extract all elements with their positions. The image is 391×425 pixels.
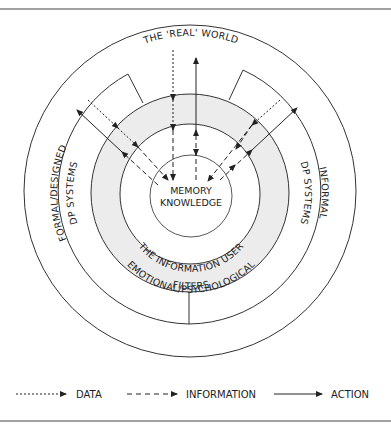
legend-item-data: DATA (16, 389, 102, 400)
legend: DATA INFORMATION ACTION (16, 389, 369, 400)
knowledge-label: KNOWLEDGE (160, 197, 222, 208)
legend-label-data: DATA (76, 389, 102, 400)
memory-knowledge-circle (150, 155, 232, 237)
right-box-edge (229, 70, 243, 100)
informal-dp-label-line1: INFORMAL (317, 166, 331, 221)
formal-dp-label-line2: DP SYSTEMS (64, 160, 79, 226)
legend-item-action: ACTION (274, 389, 369, 400)
legend-label-information: INFORMATION (186, 389, 256, 400)
left-box-edge (128, 74, 143, 103)
memory-label: MEMORY (170, 185, 212, 196)
real-world-label: THE 'REAL' WORLD (141, 27, 240, 46)
information-user-diagram: THE 'REAL' WORLD MEMORY KNOWLEDGE THE IN… (0, 0, 391, 425)
legend-item-information: INFORMATION (127, 389, 256, 400)
informal-dp-label-line2: DP SYSTEMS (299, 160, 314, 226)
legend-label-action: ACTION (331, 389, 369, 400)
